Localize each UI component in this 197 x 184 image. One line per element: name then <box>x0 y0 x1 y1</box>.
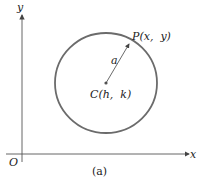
y-axis-label: y <box>16 1 24 14</box>
radius-label: a <box>111 54 118 67</box>
origin-label: O <box>9 156 18 169</box>
x-axis-label: x <box>190 148 197 161</box>
figure-caption: (a) <box>92 165 107 178</box>
center-label: C(h, k) <box>90 88 131 101</box>
circle-diagram: y x O P(x, y) a C(h, k) (a) <box>0 0 197 184</box>
point-label: P(x, y) <box>131 30 171 43</box>
